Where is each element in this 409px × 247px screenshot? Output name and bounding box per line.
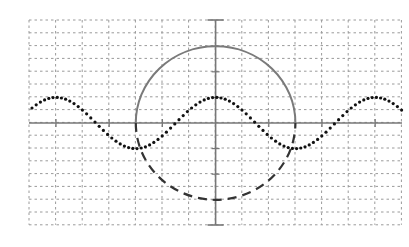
wave-dot bbox=[400, 108, 403, 111]
wave-dot bbox=[68, 99, 71, 102]
wave-dot bbox=[215, 96, 218, 99]
wave-dot bbox=[39, 100, 42, 103]
wave-dot bbox=[203, 98, 206, 101]
wave-dot bbox=[123, 144, 126, 147]
wave-dot bbox=[261, 129, 264, 132]
wave-dot bbox=[60, 96, 63, 99]
wave-dot bbox=[245, 112, 248, 115]
wave-dot bbox=[379, 96, 382, 99]
wave-dot bbox=[354, 103, 357, 106]
wave-dot bbox=[232, 102, 235, 105]
wave-dot bbox=[173, 122, 176, 125]
wave-dot bbox=[266, 133, 269, 136]
wave-dot bbox=[308, 143, 311, 146]
wave-dot bbox=[144, 145, 147, 148]
wave-dot bbox=[182, 114, 185, 117]
wave-dot bbox=[186, 110, 189, 113]
wave-dot bbox=[106, 133, 109, 136]
wave-dot bbox=[152, 141, 155, 144]
wave-dot bbox=[194, 103, 197, 106]
wave-dot bbox=[341, 114, 344, 117]
wave-dot bbox=[47, 97, 50, 100]
wave-dot bbox=[110, 136, 113, 139]
wave-dot bbox=[77, 105, 80, 108]
wave-dot bbox=[156, 138, 159, 141]
plot-canvas bbox=[0, 0, 409, 247]
wave-dot bbox=[337, 118, 340, 121]
wave-dot bbox=[165, 131, 168, 134]
wave-dot bbox=[324, 131, 327, 134]
wave-dot bbox=[190, 106, 193, 109]
wave-dot bbox=[85, 112, 88, 115]
wave-dot bbox=[207, 97, 210, 100]
wave-dot bbox=[350, 106, 353, 109]
wave-dot bbox=[333, 122, 336, 125]
wave-dot bbox=[329, 127, 332, 130]
wave-dot bbox=[287, 146, 290, 149]
wave-dot bbox=[148, 143, 151, 146]
wave-dot bbox=[228, 99, 231, 102]
wave-dot bbox=[131, 147, 134, 150]
wave-dot bbox=[316, 138, 319, 141]
wave-dot bbox=[127, 146, 130, 149]
wave-dot bbox=[392, 102, 395, 105]
wave-dot bbox=[320, 134, 323, 137]
wave-dot bbox=[224, 98, 227, 101]
wave-dot bbox=[249, 116, 252, 119]
wave-dot bbox=[312, 141, 315, 144]
wave-dot bbox=[72, 102, 75, 105]
wave-dot bbox=[253, 120, 256, 123]
wave-dot bbox=[366, 97, 369, 100]
wave-dot bbox=[291, 147, 294, 150]
wave-dot bbox=[303, 145, 306, 148]
wave-dot bbox=[211, 96, 214, 99]
wave-dot bbox=[345, 110, 348, 113]
wave-dot bbox=[270, 136, 273, 139]
wave-dot bbox=[135, 147, 138, 150]
wave-dot bbox=[371, 96, 374, 99]
wave-dot bbox=[114, 140, 117, 143]
wave-dot bbox=[282, 144, 285, 147]
wave-dot bbox=[51, 96, 54, 99]
wave-dot bbox=[358, 100, 361, 103]
coordinate-axes bbox=[29, 20, 402, 225]
wave-dot bbox=[219, 96, 222, 99]
wave-dot bbox=[64, 98, 67, 101]
plot-figure bbox=[0, 0, 409, 247]
wave-dot bbox=[140, 146, 143, 149]
wave-dot bbox=[81, 108, 84, 111]
wave-dot bbox=[387, 99, 390, 102]
wave-dot bbox=[161, 134, 164, 137]
wave-dot bbox=[362, 98, 365, 101]
wave-dot bbox=[198, 100, 201, 103]
wave-dot bbox=[30, 106, 33, 109]
wave-dot bbox=[375, 96, 378, 99]
wave-dot bbox=[396, 105, 399, 108]
wave-dot bbox=[56, 96, 59, 99]
wave-dot bbox=[177, 118, 180, 121]
wave-dot bbox=[102, 129, 105, 132]
wave-dot bbox=[278, 142, 281, 145]
wave-dot bbox=[383, 98, 386, 101]
wave-dot bbox=[35, 103, 38, 106]
wave-dot bbox=[257, 125, 260, 128]
wave-dot bbox=[43, 98, 46, 101]
wave-dot bbox=[236, 105, 239, 108]
wave-dot bbox=[299, 146, 302, 149]
wave-dot bbox=[98, 125, 101, 128]
wave-dot bbox=[89, 116, 92, 119]
wave-dot bbox=[93, 120, 96, 123]
wave-dot bbox=[240, 108, 243, 111]
wave-dot bbox=[169, 127, 172, 130]
wave-dot bbox=[119, 142, 122, 145]
wave-dot bbox=[295, 147, 298, 150]
wave-dot bbox=[274, 140, 277, 143]
